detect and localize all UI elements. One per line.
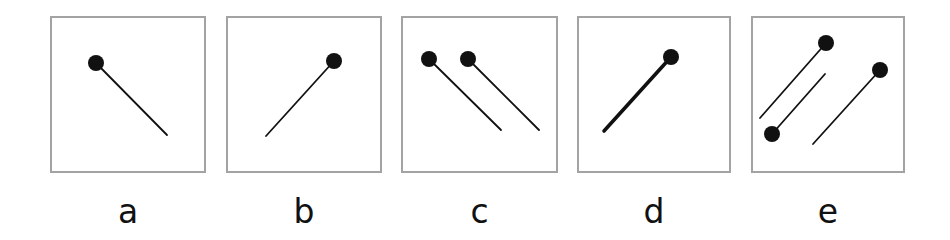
pin-shaft bbox=[96, 63, 167, 135]
pin-drawing-d bbox=[577, 16, 731, 173]
pin-head bbox=[663, 49, 679, 65]
pin-head bbox=[764, 126, 780, 142]
pin-drawing-c bbox=[401, 16, 558, 173]
pin bbox=[764, 74, 825, 142]
pin bbox=[460, 51, 539, 130]
pin-head bbox=[872, 62, 888, 78]
pin-head bbox=[460, 51, 476, 67]
pin-drawing-a bbox=[50, 16, 206, 173]
panel-d bbox=[577, 16, 731, 173]
pin-drawing-b bbox=[226, 16, 382, 173]
pin-head bbox=[421, 51, 437, 67]
pin-shaft bbox=[604, 57, 671, 131]
panel-label-a: a bbox=[98, 192, 158, 232]
pin-shaft bbox=[266, 61, 334, 136]
panel-a bbox=[50, 16, 206, 173]
panel-label-e: e bbox=[798, 192, 858, 232]
pin-head bbox=[326, 53, 342, 69]
pin-shaft bbox=[813, 70, 880, 144]
pin-shaft bbox=[468, 59, 539, 130]
panel-label-d: d bbox=[624, 192, 684, 232]
pin bbox=[266, 53, 342, 136]
panel-e bbox=[751, 16, 905, 173]
panel-label-b: b bbox=[274, 192, 334, 232]
pin bbox=[604, 49, 679, 131]
pin-shaft bbox=[760, 43, 826, 118]
pin-shaft bbox=[429, 59, 501, 130]
pin-shaft bbox=[772, 74, 825, 134]
panel-label-c: c bbox=[450, 192, 510, 232]
pin-drawing-e bbox=[751, 16, 905, 173]
panel-c bbox=[401, 16, 558, 173]
pin-head bbox=[88, 55, 104, 71]
pin bbox=[88, 55, 167, 135]
panel-b bbox=[226, 16, 382, 173]
pin-head bbox=[818, 35, 834, 51]
